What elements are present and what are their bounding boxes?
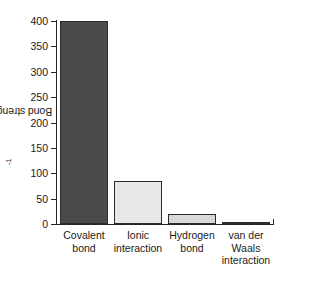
y-axis-tick-label: 150: [30, 143, 48, 154]
y-axis-tick-label: 200: [30, 117, 48, 128]
y-axis-tick-label: 350: [30, 41, 48, 52]
y-axis-tick-label: 250: [30, 92, 48, 103]
bar-chart-figure: Bond strength (kJ · mol-1) 0501001502002…: [0, 0, 311, 286]
x-axis-tick-label: van der Waals interaction: [212, 229, 280, 267]
y-axis-tick-label: 400: [30, 16, 48, 27]
y-axis-tick: [51, 173, 56, 174]
y-axis-tick: [51, 123, 56, 124]
x-axis-end-tick: [273, 219, 274, 225]
y-axis-tick: [51, 97, 56, 98]
y-axis-tick-label: 100: [30, 168, 48, 179]
y-axis-title-exponent: -1: [4, 159, 13, 165]
y-axis-tick: [51, 199, 56, 200]
x-axis-spine: [56, 224, 274, 225]
bar: [60, 21, 108, 224]
y-axis-tick: [51, 21, 56, 22]
plot-area: [57, 21, 273, 224]
y-axis-tick: [51, 224, 56, 225]
y-axis-tick: [51, 148, 56, 149]
bar: [222, 222, 270, 224]
y-axis-tick-label: 50: [36, 193, 48, 204]
y-axis-tick: [51, 72, 56, 73]
bar: [114, 181, 162, 224]
y-axis-tick-label: 300: [30, 67, 48, 78]
bar: [168, 214, 216, 224]
y-axis-tick-label: 0: [42, 219, 48, 230]
y-axis-title: Bond strength (kJ · mol-1): [0, 0, 22, 224]
y-axis-tick: [51, 46, 56, 47]
